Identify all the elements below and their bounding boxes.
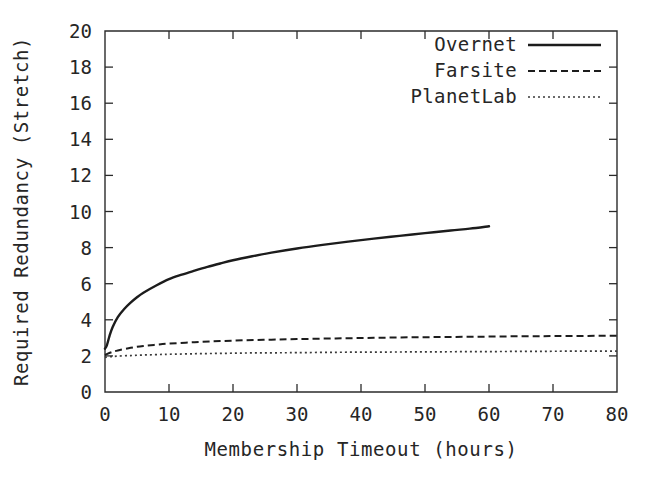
- y-tick-label: 8: [81, 237, 92, 259]
- x-tick-label: 10: [158, 403, 181, 425]
- x-tick-label: 70: [542, 403, 565, 425]
- x-tick-label: 50: [414, 403, 437, 425]
- chart-figure: 02468101214161820 01020304050607080 Memb…: [0, 0, 660, 485]
- x-axis-label: Membership Timeout (hours): [204, 438, 517, 460]
- legend-label-planetlab: PlanetLab: [410, 85, 517, 107]
- y-tick-label: 4: [81, 309, 92, 331]
- x-tick-label: 30: [286, 403, 309, 425]
- y-tick-label: 18: [69, 56, 92, 78]
- x-tick-label: 80: [606, 403, 629, 425]
- line-chart: 02468101214161820 01020304050607080 Memb…: [0, 0, 660, 485]
- y-tick-label: 0: [81, 381, 92, 403]
- legend-label-overnet: Overnet: [434, 33, 517, 55]
- y-tick-label: 16: [69, 92, 92, 114]
- legend-label-farsite: Farsite: [434, 59, 517, 81]
- y-tick-label: 20: [69, 20, 92, 42]
- y-axis-label: Required Redundancy (Stretch): [10, 37, 32, 386]
- y-tick-label: 14: [69, 128, 92, 150]
- y-tick-label: 6: [81, 273, 92, 295]
- y-tick-label: 12: [69, 164, 92, 186]
- x-tick-label: 60: [478, 403, 501, 425]
- x-tick-label: 40: [350, 403, 373, 425]
- x-tick-label: 20: [222, 403, 245, 425]
- y-tick-label: 2: [81, 345, 92, 367]
- y-tick-label: 10: [69, 201, 92, 223]
- x-tick-label: 0: [99, 403, 110, 425]
